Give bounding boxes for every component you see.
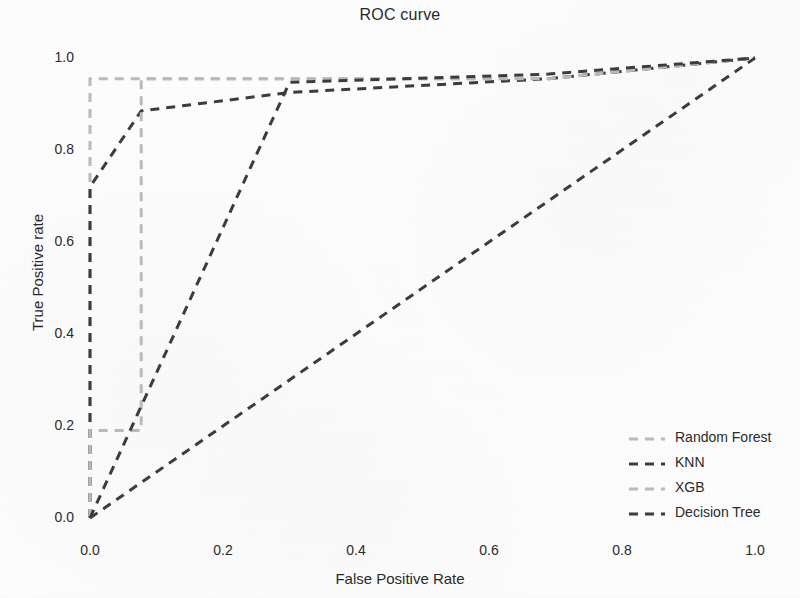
legend: Random ForestKNNXGBDecision Tree <box>628 424 771 524</box>
y-tick-label: 0.2 <box>34 417 74 433</box>
legend-line-swatch <box>628 506 666 518</box>
x-tick-label: 0.6 <box>469 542 509 558</box>
legend-item: KNN <box>628 449 771 474</box>
legend-label: XGB <box>675 479 705 495</box>
legend-line-swatch <box>628 481 666 493</box>
x-tick-label: 0.8 <box>602 542 642 558</box>
y-tick-label: 1.0 <box>34 49 74 65</box>
legend-item: Random Forest <box>628 424 771 449</box>
legend-item: Decision Tree <box>628 499 771 524</box>
y-tick-label: 0.0 <box>34 509 74 525</box>
x-axis-label: False Positive Rate <box>0 570 800 587</box>
legend-line-swatch <box>628 431 666 443</box>
x-tick-label: 0.4 <box>336 542 376 558</box>
x-tick-label: 0.0 <box>70 542 110 558</box>
roc-curve-figure: ROC curve 0.00.20.40.60.81.00.00.20.40.6… <box>0 0 800 598</box>
legend-label: Decision Tree <box>675 504 761 520</box>
x-tick-label: 1.0 <box>735 542 775 558</box>
legend-item: XGB <box>628 474 771 499</box>
legend-label: KNN <box>675 454 705 470</box>
y-axis-label: True Positive rate <box>29 153 46 393</box>
legend-line-swatch <box>628 456 666 468</box>
x-tick-label: 0.2 <box>203 542 243 558</box>
legend-label: Random Forest <box>675 429 771 445</box>
